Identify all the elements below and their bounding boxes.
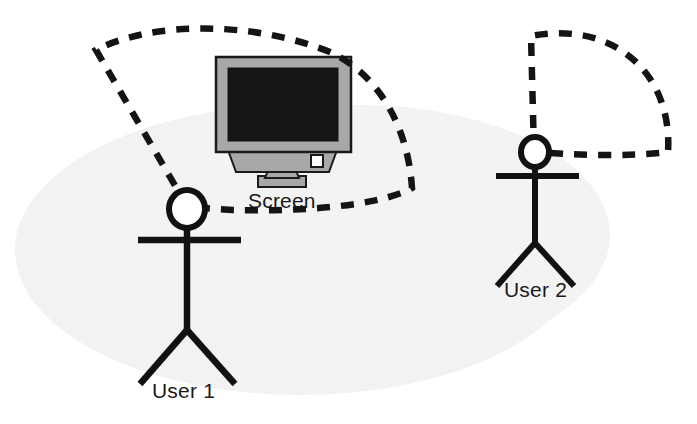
user-2-field-of-view bbox=[531, 33, 668, 155]
user-2-label: User 2 bbox=[504, 278, 567, 301]
monitor-display bbox=[228, 68, 338, 141]
user-1-label: User 1 bbox=[152, 379, 215, 402]
user-2-head bbox=[521, 137, 549, 167]
diagram-svg: Screen User 1 bbox=[0, 0, 697, 424]
monitor-power-button[interactable] bbox=[311, 155, 323, 167]
user-1-head bbox=[169, 190, 205, 228]
diagram-canvas: Screen User 1 bbox=[0, 0, 697, 424]
